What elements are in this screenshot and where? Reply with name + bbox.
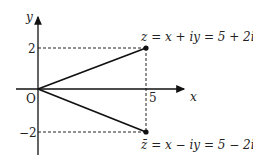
origin-label: O xyxy=(26,92,36,106)
point-z-conjugate-label: z̄ = x − iy = 5 − 2i xyxy=(140,138,253,152)
tick-label-y2: 2 xyxy=(28,42,36,56)
vector-z xyxy=(38,48,146,89)
vector-z-conjugate xyxy=(38,89,146,132)
complex-plane-diagram: y x O 2 −2 5 z = x + iy = 5 + 2i z̄ = x … xyxy=(0,0,253,163)
point-z-label: z = x + iy = 5 + 2i xyxy=(140,30,253,44)
point-z-conjugate xyxy=(143,129,148,134)
y-axis-label: y xyxy=(25,10,33,24)
tick-label-x5: 5 xyxy=(149,91,157,105)
dashed-guides xyxy=(38,48,146,132)
tick-label-y-2: −2 xyxy=(19,126,37,140)
x-axis-label: x xyxy=(190,90,197,104)
point-z xyxy=(143,45,148,50)
